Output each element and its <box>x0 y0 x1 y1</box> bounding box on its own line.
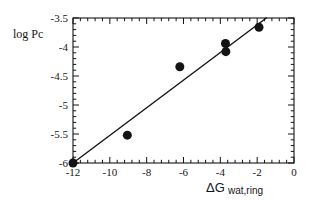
x-tick-label: 0 <box>291 166 297 178</box>
x-axis-title: ΔG wat,ring <box>206 180 263 196</box>
y-tick-label: -5 <box>59 99 69 111</box>
scatter-plot-svg: -12-10-8-6-4-20 -6-5.5-5-4.5-4-3.5 log P… <box>0 0 314 201</box>
y-tick-label: -4.5 <box>51 70 69 82</box>
data-point <box>123 131 132 140</box>
x-tick-label: -6 <box>179 166 189 178</box>
plot-frame <box>73 18 294 163</box>
y-tick-label: -4 <box>59 41 69 53</box>
y-axis-title: log Pc <box>13 27 43 41</box>
data-points <box>69 23 264 168</box>
y-tick-label: -6 <box>59 157 69 169</box>
x-tick-labels: -12-10-8-6-4-20 <box>66 166 298 178</box>
x-tick-label: -4 <box>216 166 226 178</box>
plot-border <box>73 18 294 163</box>
y-tick-label: -3.5 <box>51 12 69 24</box>
x-tick-label: -8 <box>142 166 152 178</box>
x-tick-label: -10 <box>102 166 117 178</box>
data-point <box>221 47 230 56</box>
data-point <box>175 62 184 71</box>
y-tick-labels: -6-5.5-5-4.5-4-3.5 <box>51 12 69 169</box>
x-tick-label: -2 <box>253 166 262 178</box>
data-point <box>255 23 264 32</box>
x-axis-title-subscript: wat,ring <box>227 185 263 196</box>
fit-line <box>73 18 266 163</box>
axis-ticks <box>73 18 294 163</box>
data-point <box>221 39 230 48</box>
chart-figure: -12-10-8-6-4-20 -6-5.5-5-4.5-4-3.5 log P… <box>0 0 314 201</box>
x-axis-title-lead: ΔG <box>206 180 225 195</box>
y-tick-label: -5.5 <box>51 128 69 140</box>
